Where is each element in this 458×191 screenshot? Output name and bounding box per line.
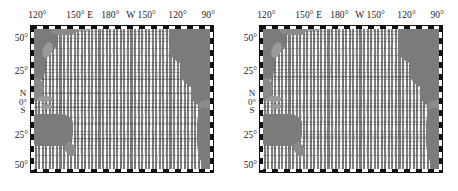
lon-tick-90w: 90° — [431, 9, 445, 22]
lon-tick-120e: 120° — [28, 9, 46, 22]
lon-tick-150w: W 150° — [126, 9, 156, 22]
left-panel-longitude-axis: 120° 150° E 180° W 150° 120° 90° — [24, 9, 216, 22]
land-indonesia — [37, 96, 53, 102]
lat-tick-25s: 25° — [15, 130, 28, 140]
land-australia — [259, 114, 302, 146]
lat-tick-50s: 50° — [244, 160, 257, 170]
vector-band — [260, 105, 442, 107]
frame-tick-bottom — [260, 169, 442, 172]
lon-tick-150e: 150° E — [295, 9, 322, 22]
lat-tick-south-letter: S — [248, 106, 256, 115]
lat-tick-50n: 50° — [15, 33, 28, 43]
lat-tick-50n: 50° — [244, 33, 257, 43]
right-panel: 120° 150° E 180° W 150° 120° 90° 50° 25°… — [229, 0, 458, 191]
lat-tick-equator: N 0° S — [248, 89, 256, 115]
lat-tick-south-letter: S — [19, 106, 27, 115]
lon-tick-150w: W 150° — [355, 9, 385, 22]
lat-tick-50s: 50° — [15, 160, 28, 170]
frame-tick-top — [260, 26, 442, 29]
left-panel-latitude-axis: 50° 25° N 0° S 25° 50° — [2, 24, 29, 174]
land-new-guinea — [41, 104, 53, 109]
right-panel-latitude-axis: 50° 25° N 0° S 25° 50° — [231, 24, 258, 174]
vector-band — [31, 106, 213, 108]
land-australia — [30, 114, 73, 146]
lat-tick-equator: N 0° S — [19, 89, 27, 115]
frame-tick-right — [439, 26, 442, 172]
frame-tick-top — [31, 26, 213, 29]
lat-tick-25n: 25° — [15, 66, 28, 76]
lon-tick-180: 180° — [101, 9, 119, 22]
left-panel-map — [30, 25, 214, 173]
lon-tick-120e: 120° — [257, 9, 275, 22]
vector-band — [31, 92, 213, 94]
lon-tick-150e: 150° E — [66, 9, 93, 22]
vector-band — [260, 90, 442, 92]
left-panel: 120° 150° E 180° W 150° 120° 90° 50° 25°… — [0, 0, 229, 191]
frame-tick-left — [31, 26, 34, 172]
two-panel-pacific-vector-figure: 120° 150° E 180° W 150° 120° 90° 50° 25°… — [0, 0, 458, 191]
land-indonesia — [266, 96, 282, 102]
lon-tick-180: 180° — [330, 9, 348, 22]
lat-tick-25s: 25° — [244, 130, 257, 140]
right-panel-map — [259, 25, 443, 173]
frame-tick-right — [210, 26, 213, 172]
lat-tick-25n: 25° — [244, 66, 257, 76]
lon-tick-90w: 90° — [202, 9, 216, 22]
land-new-guinea — [270, 104, 282, 109]
lon-tick-120w: 120° — [397, 9, 415, 22]
frame-tick-bottom — [31, 169, 213, 172]
lon-tick-120w: 120° — [168, 9, 186, 22]
frame-tick-left — [260, 26, 263, 172]
right-panel-longitude-axis: 120° 150° E 180° W 150° 120° 90° — [253, 9, 445, 22]
